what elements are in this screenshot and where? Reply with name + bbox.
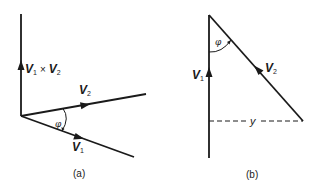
- label-v2-b: V2: [265, 61, 277, 75]
- caption-a: (a): [73, 168, 85, 179]
- caption-b: (b): [246, 169, 258, 180]
- panel-a: φ V1×V2 V2 V1 (a): [18, 14, 147, 179]
- angle-label-phi: φ: [215, 37, 222, 47]
- distance-label-y: y: [249, 115, 257, 127]
- vector-diagram: φ V1×V2 V2 V1 (a) φ y V1 V2 (b): [0, 0, 317, 187]
- label-v1-b: V1: [192, 68, 204, 82]
- angle-label-phi: φ: [55, 119, 62, 129]
- arrowhead-icon: [18, 60, 25, 70]
- arrowhead-icon: [73, 133, 84, 140]
- panel-b: φ y V1 V2 (b): [192, 15, 303, 180]
- arrowhead-icon: [206, 67, 213, 77]
- label-v1-cross-v2: V1×V2: [25, 62, 61, 76]
- label-v1-a: V1: [72, 140, 84, 154]
- label-v2-a: V2: [79, 83, 91, 97]
- angle-arc: [62, 109, 66, 131]
